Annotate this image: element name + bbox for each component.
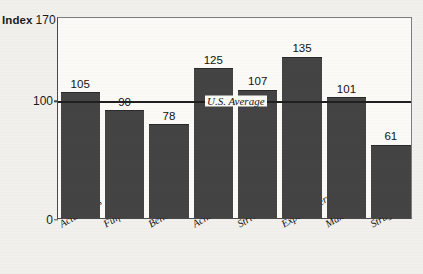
bar xyxy=(238,90,277,218)
bar xyxy=(105,110,144,218)
bar-chart: Index170 100 0 105907812510713510161 U.S… xyxy=(0,0,423,274)
bar-group: 90 xyxy=(105,18,144,218)
bar-group: 107 xyxy=(238,18,277,218)
bar-group: 61 xyxy=(371,18,410,218)
bar xyxy=(194,68,233,218)
x-axis-labels: ActualizersFulfilledsBelieversAchieversS… xyxy=(57,221,412,274)
y-axis-header: Index170 xyxy=(2,11,56,27)
bar-value-label: 101 xyxy=(327,84,366,96)
bar-value-label: 61 xyxy=(371,131,410,143)
plot-area: 100 0 105907812510713510161 U.S. Average xyxy=(57,17,412,219)
bar xyxy=(371,145,410,218)
bar-group: 101 xyxy=(327,18,366,218)
us-average-label: U.S. Average xyxy=(205,96,267,107)
bar xyxy=(327,97,366,218)
bar xyxy=(61,92,100,218)
bar-value-label: 78 xyxy=(149,111,188,123)
bar-value-label: 107 xyxy=(238,76,277,88)
bar-group: 135 xyxy=(282,18,321,218)
y-axis-title: Index xyxy=(2,14,33,26)
bar-value-label: 105 xyxy=(61,79,100,91)
y-axis-tick-label-top: 170 xyxy=(36,13,56,27)
y-axis-tick-label-mid: 100 xyxy=(33,95,53,107)
bar-group: 78 xyxy=(149,18,188,218)
bar xyxy=(282,57,321,218)
bar-group: 125 xyxy=(194,18,233,218)
bar-value-label: 135 xyxy=(282,43,321,55)
bar-value-label: 125 xyxy=(194,55,233,67)
bar xyxy=(149,124,188,218)
bars-container: 105907812510713510161 xyxy=(58,18,411,218)
bar-group: 105 xyxy=(61,18,100,218)
y-axis-tick-label-bottom: 0 xyxy=(46,214,53,226)
